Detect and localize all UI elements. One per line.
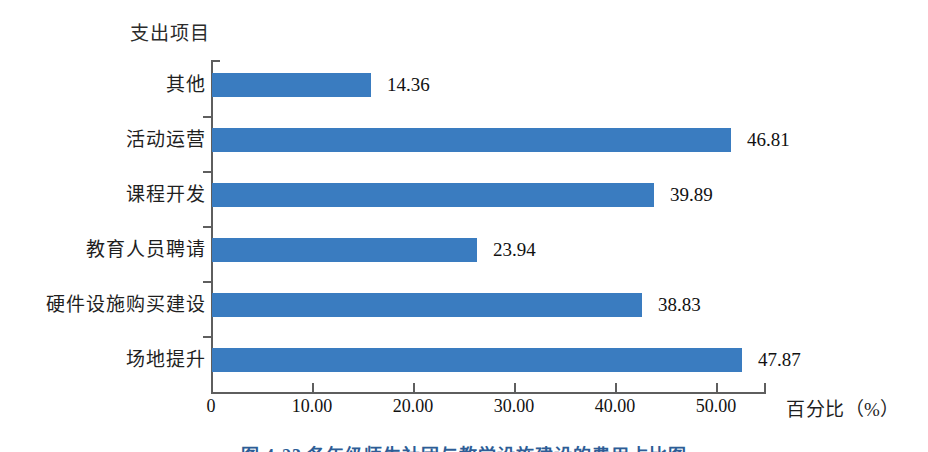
bar[interactable] [212, 348, 742, 372]
bar-row: 课程开发 39.89 [0, 183, 928, 238]
y-axis-title: 支出项目 [130, 18, 210, 45]
bar-value-label: 23.94 [493, 238, 536, 262]
figure-caption: 图 4-23 各年级师生社团与教学设施建设的费用占比图 [0, 441, 928, 452]
bar[interactable] [212, 128, 731, 152]
bar-chart-figure: 支出项目 其他 14.36 活动运营 46.81 课程开发 39.89 教育人员… [0, 0, 928, 452]
bar[interactable] [212, 183, 654, 207]
y-axis-top-cap [211, 60, 220, 62]
y-axis-category-label: 课程开发 [126, 183, 206, 207]
y-axis-category-label: 其他 [166, 73, 206, 97]
bar[interactable] [212, 73, 371, 97]
y-axis-category-label: 场地提升 [126, 348, 206, 372]
x-axis-tick-label: 20.00 [393, 396, 434, 417]
x-axis-tick-label: 50.00 [696, 396, 737, 417]
x-axis-tick-label: 40.00 [595, 396, 636, 417]
bar-row: 活动运营 46.81 [0, 128, 928, 183]
y-axis-category-label: 活动运营 [126, 128, 206, 152]
bar-value-label: 38.83 [658, 293, 701, 317]
y-axis-category-label: 教育人员聘请 [86, 238, 206, 262]
x-axis-tick-label: 10.00 [292, 396, 333, 417]
bar-value-label: 46.81 [747, 128, 790, 152]
bar[interactable] [212, 293, 642, 317]
y-axis-category-label: 硬件设施购买建设 [46, 293, 206, 317]
bar-row: 其他 14.36 [0, 73, 928, 128]
bar-value-label: 47.87 [758, 348, 801, 372]
bar-value-label: 14.36 [387, 73, 430, 97]
x-axis-tick-label: 30.00 [494, 396, 535, 417]
bar-row: 教育人员聘请 23.94 [0, 238, 928, 293]
bar[interactable] [212, 238, 477, 262]
x-axis-tick-label: 0 [207, 396, 216, 417]
bar-row: 硬件设施购买建设 38.83 [0, 293, 928, 348]
x-axis-title: 百分比（%） [786, 394, 900, 421]
bar-value-label: 39.89 [670, 183, 713, 207]
